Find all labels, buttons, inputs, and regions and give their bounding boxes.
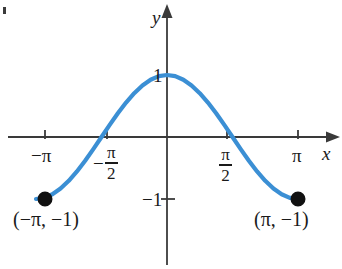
x-tick-label-pi-over-2: π 2 bbox=[219, 145, 232, 185]
scan-speck bbox=[3, 7, 6, 14]
fraction: π 2 bbox=[105, 144, 118, 182]
pi-glyph: π bbox=[42, 145, 52, 166]
y-tick-label-1: 1 bbox=[153, 66, 163, 85]
fraction-numerator: π bbox=[106, 144, 117, 162]
right-endpoint-label: (π, −1) bbox=[254, 209, 309, 229]
x-tick-label-neg-pi: −π bbox=[31, 146, 51, 165]
fraction-numerator: π bbox=[220, 146, 231, 164]
fraction-denominator: 2 bbox=[220, 166, 231, 184]
left-endpoint-dot bbox=[39, 193, 52, 206]
fraction: π 2 bbox=[219, 146, 232, 184]
graph-figure: y x 1 −1 −π − π 2 π 2 π (−π, −1) (π bbox=[0, 0, 342, 269]
fraction-wrapper: π 2 bbox=[219, 147, 232, 185]
y-tick-label-neg-1: −1 bbox=[142, 190, 162, 209]
right-endpoint-dot bbox=[292, 193, 305, 206]
minus-glyph: − bbox=[93, 154, 104, 173]
x-tick-label-pi: π bbox=[292, 146, 302, 165]
y-axis-label: y bbox=[152, 8, 160, 27]
x-axis-arrow-icon bbox=[326, 132, 340, 143]
y-axis-arrow-icon bbox=[162, 4, 173, 18]
x-axis-label: x bbox=[322, 144, 330, 163]
x-tick-label-neg-pi-over-2: − π 2 bbox=[93, 145, 118, 183]
minus-glyph: − bbox=[31, 145, 42, 166]
left-endpoint-label: (−π, −1) bbox=[13, 209, 79, 229]
fraction-wrapper: − π 2 bbox=[93, 145, 118, 183]
fraction-denominator: 2 bbox=[106, 164, 117, 182]
